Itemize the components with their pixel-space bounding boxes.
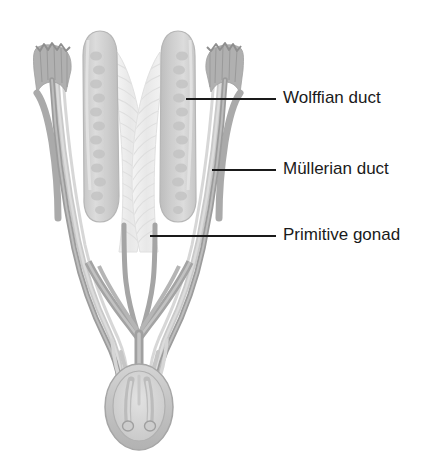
- label-mullerian-duct: Müllerian duct: [283, 159, 389, 178]
- label-wolffian-duct: Wolffian duct: [283, 88, 381, 107]
- diagram-root: Wolffian duct Müllerian duct Primitive g…: [0, 0, 437, 465]
- urogenital-diagram-svg: Wolffian duct Müllerian duct Primitive g…: [0, 0, 437, 465]
- label-primitive-gonad: Primitive gonad: [283, 225, 400, 244]
- left-primitive-gonad: [83, 31, 119, 222]
- urogenital-sinus: [105, 364, 173, 450]
- right-primitive-gonad: [160, 31, 196, 222]
